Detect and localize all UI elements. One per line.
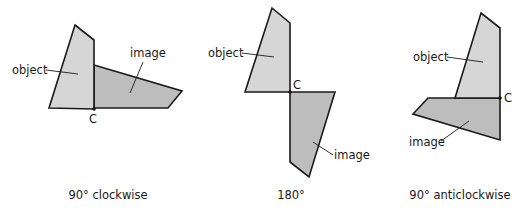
image-shape [290,92,335,177]
object-shape [49,25,94,109]
panel-clockwise: objectimageC90° clockwise [12,25,182,202]
centre-label: C [293,78,301,92]
centre-label: C [504,91,512,105]
panel-anticlockwise: objectimageC90° anticlockwise [409,13,512,202]
image-shape [94,65,182,108]
rotation-diagrams-svg: objectimageC90° clockwiseobjectimageC180… [0,0,521,213]
object-label: object [208,46,244,60]
panel-caption: 90° clockwise [68,188,147,202]
rotation-figure: objectimageC90° clockwiseobjectimageC180… [0,0,521,213]
image-label: image [130,46,166,60]
panel-caption: 90° anticlockwise [409,188,510,202]
object-label: object [12,63,48,77]
image-label: image [409,135,445,149]
centre-point [288,90,292,94]
object-shape [245,8,290,92]
centre-point [498,96,502,100]
image-label: image [334,148,370,162]
object-label: object [413,50,449,64]
panel-caption: 180° [277,188,305,202]
panel-half-turn: objectimageC180° [208,8,370,202]
centre-point [92,107,96,111]
centre-label: C [89,112,97,126]
object-shape [455,13,500,98]
image-shape [413,98,500,140]
